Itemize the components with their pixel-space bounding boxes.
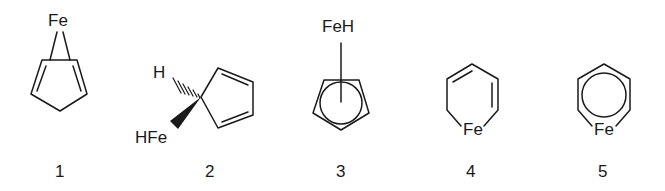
solid-wedge-bond bbox=[170, 97, 201, 129]
atom-h-label: H bbox=[153, 63, 165, 82]
atom-feh-label: FeH bbox=[322, 17, 354, 36]
ferracycle-ring bbox=[447, 64, 498, 126]
atom-fe-label: Fe bbox=[48, 11, 68, 30]
structure-5: Fe 5 bbox=[578, 64, 630, 181]
fe-bond-left bbox=[50, 32, 57, 60]
structure-1: Fe 1 bbox=[31, 11, 87, 181]
aromatic-circle bbox=[582, 73, 626, 117]
atom-fe-label: Fe bbox=[463, 120, 483, 139]
structure-2: H HFe 2 bbox=[135, 63, 253, 181]
double-bond-inner-bottom bbox=[222, 112, 248, 122]
fe-bond-right bbox=[63, 32, 70, 60]
structure-number: 1 bbox=[55, 162, 64, 181]
cyclopentadiene-ring bbox=[201, 68, 253, 128]
structure-number: 5 bbox=[598, 162, 607, 181]
hashed-wedge-bond bbox=[173, 78, 200, 98]
structure-number: 3 bbox=[336, 162, 345, 181]
structure-number: 4 bbox=[466, 162, 475, 181]
double-bond-inner-top-left bbox=[453, 71, 472, 82]
atom-hfe-label: HFe bbox=[135, 128, 167, 147]
structure-4: Fe 4 bbox=[447, 64, 498, 181]
chemical-structures-figure: Fe 1 H HFe 2 FeH 3 bbox=[0, 0, 665, 191]
double-bond-inner-top bbox=[222, 74, 248, 85]
structure-3: FeH 3 bbox=[313, 17, 369, 181]
structure-number: 2 bbox=[205, 162, 214, 181]
atom-fe-label: Fe bbox=[594, 120, 614, 139]
